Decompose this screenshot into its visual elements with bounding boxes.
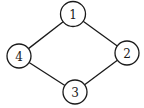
node-2: 2 xyxy=(115,41,139,65)
node-1-label: 1 xyxy=(69,8,77,22)
edge-2-3 xyxy=(85,60,118,85)
node-3: 3 xyxy=(63,80,87,104)
edges-group xyxy=(28,21,117,85)
node-1: 1 xyxy=(61,2,86,27)
node-4-label: 4 xyxy=(15,50,23,64)
node-4: 4 xyxy=(7,44,31,68)
edge-1-2 xyxy=(83,21,117,46)
edge-4-1 xyxy=(28,22,63,49)
graph-diagram: 1 2 3 4 xyxy=(0,0,144,108)
node-2-label: 2 xyxy=(123,47,131,61)
node-3-label: 3 xyxy=(71,86,79,100)
graph-svg: 1 2 3 4 xyxy=(0,0,144,108)
edge-3-4 xyxy=(29,62,65,85)
nodes-group: 1 2 3 4 xyxy=(7,2,139,105)
